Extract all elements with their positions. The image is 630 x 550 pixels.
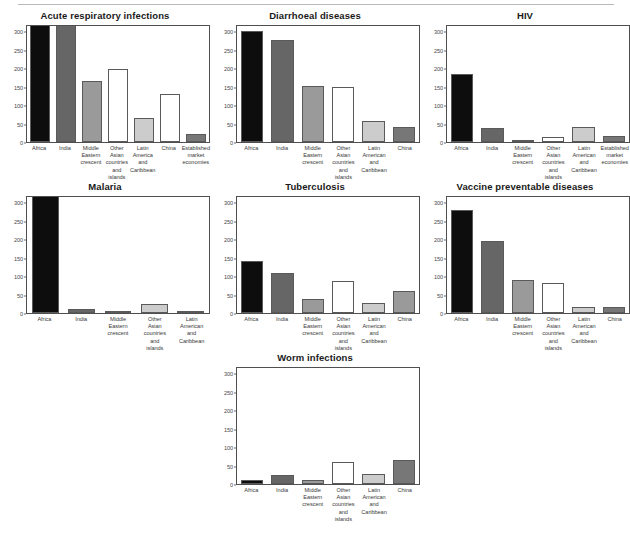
x-tick-label-line: countries	[538, 159, 569, 166]
bar-africa[interactable]	[451, 74, 473, 142]
bar-other-asian-countries-and-islands[interactable]	[542, 283, 564, 313]
bar-middle-eastern-crescent[interactable]	[302, 86, 324, 142]
bar-other-asian-countries-and-islands[interactable]	[108, 69, 127, 142]
y-axis-vaccine-preventable-diseases: 050100150200250300	[420, 196, 446, 314]
x-tick-label-latin-american-and-caribbean: LatinAmericanandCaribbean	[359, 314, 390, 352]
x-tick-label-line: Other	[328, 487, 359, 494]
bar-other-asian-countries-and-islands[interactable]	[332, 281, 354, 313]
bar-africa[interactable]	[241, 31, 263, 142]
x-tick-label-line: crescent	[507, 159, 538, 166]
x-tick-label-africa: Africa	[446, 314, 477, 352]
bar-latin-american-and-caribbean[interactable]	[572, 307, 594, 313]
x-tick-label-line: Caribbean	[359, 338, 390, 345]
bar-established-market-economies[interactable]	[603, 136, 625, 142]
bar-india[interactable]	[271, 40, 293, 142]
x-tick-label-line: India	[477, 145, 508, 152]
bar-middle-eastern-crescent[interactable]	[302, 480, 324, 484]
bar-latin-american-and-caribbean[interactable]	[362, 303, 384, 313]
x-tick-label-line: Africa	[446, 316, 477, 323]
y-tick-label: 50	[17, 122, 23, 128]
x-tick-label-line: American	[569, 152, 600, 159]
x-tick-label-middle-eastern-crescent: MiddleEasterncrescent	[297, 314, 328, 352]
bar-latin-american-and-caribbean[interactable]	[572, 127, 594, 142]
bar-india[interactable]	[481, 241, 503, 313]
bar-india[interactable]	[481, 128, 503, 142]
chart-panel-malaria: Malaria050100150200250300AfricaIndiaMidd…	[0, 181, 210, 352]
bar-latin-american-and-caribbean[interactable]	[177, 311, 204, 313]
x-tick-label-line: countries	[104, 159, 130, 166]
x-tick-label-line: Latin	[359, 487, 390, 494]
bar-india[interactable]	[271, 475, 293, 484]
bar-india[interactable]	[56, 25, 75, 142]
y-tick-label: 0	[20, 140, 23, 146]
bar-middle-eastern-crescent[interactable]	[105, 311, 132, 313]
bar-slot	[538, 197, 568, 313]
bar-other-asian-countries-and-islands[interactable]	[542, 137, 564, 142]
y-tick-label: 300	[224, 371, 233, 377]
x-tick-label-line: and	[328, 509, 359, 516]
bar-china[interactable]	[603, 307, 625, 313]
bar-middle-eastern-crescent[interactable]	[82, 81, 101, 142]
x-tick-label-latin-america-and-caribbean: LatinAmericaandCaribbean	[130, 143, 156, 181]
bar-slot	[298, 368, 328, 484]
x-tick-label-line: islands	[538, 174, 569, 181]
chart-panel-worm-infections: Worm infections050100150200250300AfricaI…	[210, 352, 420, 523]
y-tick-label: 150	[434, 85, 443, 91]
bar-africa[interactable]	[241, 480, 263, 484]
chart-title-worm-infections: Worm infections	[210, 352, 420, 365]
x-tick-label-line: Middle	[507, 145, 538, 152]
bar-slot	[53, 26, 79, 142]
bar-slot	[27, 26, 53, 142]
bar-other-asian-countries-and-islands[interactable]	[141, 304, 168, 313]
x-tick-label-line: America	[130, 152, 156, 159]
x-tick-label-line: countries	[328, 501, 359, 508]
bar-china[interactable]	[393, 460, 415, 484]
x-tick-label-india: India	[267, 485, 298, 523]
bar-africa[interactable]	[30, 25, 49, 142]
bar-middle-eastern-crescent[interactable]	[512, 280, 534, 313]
x-tick-label-line: Asian	[538, 152, 569, 159]
y-tick-label: 250	[224, 48, 233, 54]
bar-slot	[568, 26, 598, 142]
plot-wrapper-acute-respiratory-infections: 050100150200250300	[0, 25, 210, 143]
bar-latin-american-and-caribbean[interactable]	[362, 121, 384, 142]
y-tick-label: 100	[14, 103, 23, 109]
x-tick-label-africa: Africa	[446, 143, 477, 181]
bar-india[interactable]	[68, 309, 95, 313]
x-tick-label-line: India	[267, 487, 298, 494]
bar-other-asian-countries-and-islands[interactable]	[332, 462, 354, 484]
bar-latin-american-and-caribbean[interactable]	[362, 474, 384, 484]
bar-middle-eastern-crescent[interactable]	[302, 299, 324, 313]
plot-area-vaccine-preventable-diseases	[446, 196, 630, 314]
bar-india[interactable]	[271, 273, 293, 313]
bar-africa[interactable]	[451, 210, 473, 313]
x-tick-label-china: China	[599, 314, 630, 352]
chart-title-acute-respiratory-infections: Acute respiratory infections	[0, 10, 210, 23]
x-tick-label-middle-eastern-crescent: MiddleEasterncrescent	[100, 314, 137, 352]
x-tick-label-line: American	[359, 494, 390, 501]
x-tick-label-latin-american-and-caribbean: LatinAmericanandCaribbean	[569, 143, 600, 181]
bar-africa[interactable]	[241, 261, 263, 313]
bar-africa[interactable]	[32, 196, 59, 313]
x-tick-label-africa: Africa	[236, 143, 267, 181]
bar-slot	[389, 197, 419, 313]
bar-latin-america-and-caribbean[interactable]	[134, 118, 153, 142]
y-tick-label: 100	[224, 274, 233, 280]
bar-established-market-economies[interactable]	[186, 134, 205, 142]
x-tick-label-africa: Africa	[26, 143, 52, 181]
x-tick-label-other-asian-countries-and-islands: OtherAsiancountriesandislands	[328, 314, 359, 352]
bar-china[interactable]	[393, 127, 415, 142]
bar-slot	[328, 368, 358, 484]
x-tick-label-line: Eastern	[507, 152, 538, 159]
bar-slot	[599, 197, 629, 313]
bar-middle-eastern-crescent[interactable]	[512, 140, 534, 142]
y-axis-worm-infections: 050100150200250300	[210, 367, 236, 485]
x-tick-label-line: Caribbean	[569, 338, 600, 345]
x-tick-label-other-asian-countries-and-islands: OtherAsiancountriesandislands	[538, 314, 569, 352]
y-tick-label: 100	[224, 445, 233, 451]
bar-china[interactable]	[160, 94, 179, 142]
bar-other-asian-countries-and-islands[interactable]	[332, 87, 354, 142]
bar-slot	[79, 26, 105, 142]
y-tick-label: 200	[434, 237, 443, 243]
bar-china[interactable]	[393, 291, 415, 313]
